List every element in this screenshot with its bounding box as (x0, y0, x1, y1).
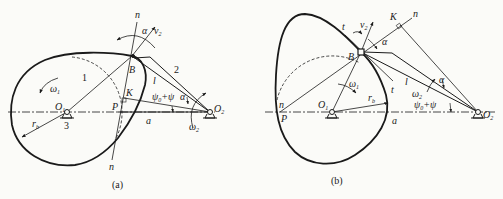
label-l: l (153, 75, 156, 86)
caption-b: (b) (331, 175, 343, 187)
label-n-bottom: n (109, 161, 114, 172)
label-v2: v2 (154, 25, 161, 37)
alpha-angle-arc (187, 97, 188, 104)
label-n-left: n (279, 99, 284, 110)
label-t-top: t (342, 21, 345, 32)
figure-a (8, 22, 217, 165)
rotation-arc-b (353, 32, 362, 34)
label-frame-3: 3 (64, 120, 69, 131)
label-b: B (348, 51, 354, 62)
line-o1-b (332, 52, 361, 112)
normal-line (112, 22, 137, 160)
label-omega2: ω2 (189, 121, 199, 133)
label-o1: O1 (318, 99, 328, 111)
label-p: P (111, 101, 118, 112)
label-omega1: ω1 (349, 78, 359, 90)
label-o2: O2 (483, 109, 493, 121)
label-a: a (146, 115, 151, 126)
figure-a-labels: n α v2 ω1 1 2 B l K ψ0+ψ α O1 O2 P a rb … (32, 9, 224, 191)
label-link-1: 1 (82, 72, 87, 83)
pivot-o1 (65, 110, 70, 115)
label-link-2: 2 (174, 64, 179, 75)
psi-angle-arc (450, 103, 451, 112)
label-rb: rb (32, 118, 39, 130)
label-a: a (392, 115, 397, 126)
rb-line (332, 103, 388, 112)
label-alpha: α (142, 25, 148, 36)
rb-line (22, 112, 67, 137)
label-v2: v2 (360, 19, 367, 31)
label-o2: O2 (214, 103, 224, 115)
base-circle (72, 57, 122, 140)
label-b: B (129, 64, 135, 75)
base-circle (277, 56, 360, 100)
label-rb: rb (368, 92, 375, 104)
label-alpha-2: α (439, 74, 445, 85)
follower-arm (132, 56, 210, 112)
label-o1: O1 (55, 101, 65, 113)
cam-profile (276, 14, 388, 164)
roller-b (132, 55, 135, 58)
omega2-arc (427, 79, 435, 92)
normal-line (280, 18, 412, 112)
label-n-top: n (135, 9, 140, 20)
label-psi: ψ0+ψ (152, 91, 175, 103)
figure-b (265, 14, 495, 164)
psi-angle-arc (172, 106, 173, 112)
caption-a: (a) (112, 179, 123, 191)
label-k: K (389, 11, 398, 22)
label-t-bottom: t (391, 84, 394, 95)
pivot-o2 (208, 110, 213, 115)
roller-b (358, 49, 364, 55)
label-k: K (125, 87, 134, 98)
cam-profile (11, 53, 146, 166)
label-l: l (405, 76, 408, 87)
cam-mechanism-diagrams: n α v2 ω1 1 2 B l K ψ0+ψ α O1 O2 P a rb … (0, 0, 503, 199)
label-n-top: n (413, 8, 418, 19)
label-p: P (280, 113, 287, 124)
label-psi: ψ0+ψ (414, 99, 437, 111)
label-omega1: ω1 (50, 83, 60, 95)
label-alpha-2: α (180, 91, 186, 102)
pivot-o1 (330, 110, 335, 115)
rotation-arc-b (117, 36, 155, 49)
pivot-o2 (476, 110, 481, 115)
label-alpha: α (382, 36, 388, 47)
